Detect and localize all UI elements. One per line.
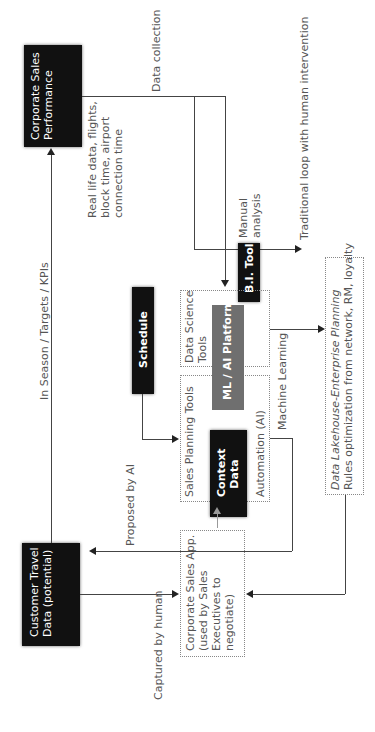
data-science-tools-label: Data Science Tools (183, 291, 209, 363)
data-collection-down-connector (225, 96, 226, 280)
data-lakehouse-label: Data Lakehouse-Enterprise Planning Rules… (329, 243, 355, 490)
context-data-label: Context Data (215, 451, 241, 497)
schedule-connector (142, 394, 143, 439)
captured-by-human-arrowhead-icon (172, 590, 179, 598)
data-collection-label: Data collection (150, 9, 163, 92)
app-to-planning-arrowhead-icon (213, 507, 221, 514)
proposed-by-ai-label: Proposed by AI (124, 464, 137, 546)
sales-planning-tools-label: Sales Planning Tools (183, 386, 196, 497)
machine-learning-connector (270, 329, 318, 330)
in-season-connector (51, 155, 52, 543)
schedule-label: Schedule (137, 311, 150, 368)
in-season-label: In Season / Targets / KPIs (38, 262, 51, 400)
corporate-sales-app-label: Corporate Sales App. (used by Sales Exec… (184, 535, 236, 651)
schedule-to-sales-planning-connector (142, 439, 173, 440)
machine-learning-arrowhead-icon (318, 325, 325, 333)
traditional-loop-connector (194, 96, 195, 249)
traditional-loop-arrowhead-icon (295, 245, 302, 253)
in-season-arrowhead-icon (47, 148, 55, 155)
manual-analysis-label: Manual analysis (237, 193, 263, 238)
automation-out-connector (270, 438, 292, 439)
lakehouse-down-connector (345, 495, 346, 594)
automation-ai-label: Automation (AI) (254, 410, 267, 497)
machine-learning-label: Machine Learning (276, 333, 289, 430)
app-to-planning-connector (217, 514, 218, 528)
traditional-loop-label: Traditional loop with human intervention (298, 17, 311, 240)
lakehouse-to-app-arrowhead-icon (246, 590, 253, 598)
corporate-sales-performance-label: Corporate Sales Performance (29, 50, 55, 140)
bi-tool-label: B.I. Tool (243, 243, 256, 293)
lakehouse-to-app-connector (253, 594, 345, 595)
data-collection-connector (82, 96, 226, 97)
customer-travel-data-label: Customer Travel Data (potential) (28, 542, 54, 637)
proposed-by-ai-arrowhead-icon (89, 547, 96, 555)
real-life-data-label: Real life data, flights, block time, air… (86, 101, 125, 218)
schedule-arrowhead-icon (172, 435, 179, 443)
data-collection-arrowhead-icon (221, 280, 229, 287)
captured-by-human-label: Captured by human (152, 590, 165, 700)
ml-ai-platform-label: ML / AI Platform (221, 300, 234, 400)
automation-down-connector (292, 438, 293, 551)
